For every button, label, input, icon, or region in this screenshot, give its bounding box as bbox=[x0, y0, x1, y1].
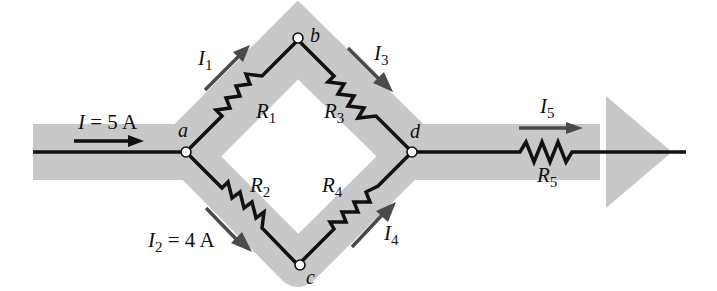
current-label-I2: I2 = 4 A bbox=[147, 228, 215, 255]
node-c bbox=[295, 260, 305, 270]
node-label-a: a bbox=[178, 119, 188, 141]
resistor-label-R2: R2 bbox=[249, 173, 270, 200]
current-label-I3: I3 bbox=[373, 41, 389, 68]
current-label-I: I = 5 A bbox=[77, 110, 138, 134]
node-label-b: b bbox=[310, 24, 320, 46]
node-label-c: c bbox=[306, 266, 315, 288]
resistor-label-R4: R4 bbox=[321, 173, 343, 200]
current-label-I4: I4 bbox=[383, 221, 399, 248]
current-label-I1: I1 bbox=[197, 46, 213, 73]
circuit-diagram: a b c d I = 5 A I1 bbox=[0, 0, 717, 291]
node-d bbox=[407, 147, 417, 157]
node-b bbox=[293, 33, 303, 43]
node-a bbox=[181, 147, 191, 157]
current-label-I5: I5 bbox=[539, 94, 555, 121]
node-label-d: d bbox=[410, 120, 421, 142]
